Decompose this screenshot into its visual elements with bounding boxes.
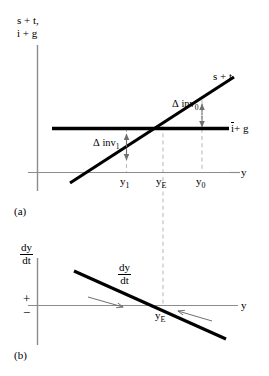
panel-b-y-axis-numerator: dy [20,242,33,255]
panel-b-negative-sign: − [23,306,30,319]
panel-a-x-axis-label: y [241,167,247,178]
panel-b-curve-fraction: dy dt [118,262,131,286]
panel-a-delta-inv-0-label: Δ inv0 [172,99,199,112]
inv-text-0: inv [181,98,194,109]
panel-b-equilibrium-label: yE [155,310,165,324]
panel-a-delta-inv-1-label: Δ inv1 [93,138,120,151]
panel-a-tick-y0: y0 [196,176,205,190]
delta-symbol-0: Δ [172,98,179,109]
panel-a-tick-yE: yE [156,176,166,190]
panel-b-curve-numerator: dy [118,262,131,275]
panel-b-curve-denominator: dt [118,275,131,287]
plus-g-text: + g [234,122,248,134]
panel-a-line-label-i-plus-g: i+ g [231,122,249,134]
delta-symbol-1: Δ [93,137,100,148]
panel-b-y-axis-label: dy dt [20,242,33,266]
panel-b-y-axis-denominator: dt [20,255,33,267]
panel-b-equilibrium-sub: E [161,315,166,324]
panel-b-x-axis-label: y [241,300,247,311]
panel-a-y-axis-label: s + t, i + g [17,14,39,39]
panel-b-positive-sign: + [23,292,30,305]
panel-a-label: (a) [14,206,26,217]
panel-b-y-axis-fraction: dy dt [20,242,33,266]
figure-canvas [0,0,269,376]
panel-a-axes [28,45,238,191]
panel-a-tick-y1: y1 [120,176,129,190]
panel-a-curve-label-s-plus-t: s + t [213,71,232,82]
inv-sub-1: 1 [116,142,120,151]
panel-a-y-axis-label-line1: s + t, [17,14,39,27]
tick-y1-sub: 1 [126,181,130,190]
panel-b-label: (b) [14,350,27,361]
tick-y0-sub: 0 [202,181,206,190]
panel-a-y-axis-label-line2: i + g [17,27,39,40]
panel-b-curve-label: dy dt [118,262,131,286]
inv-text-1: inv [102,137,115,148]
tick-yE-sub: E [162,181,167,190]
economics-figure: s + t, i + g s + t i+ g Δ inv0 Δ inv1 y1… [0,0,269,376]
inv-sub-0: 0 [195,103,199,112]
